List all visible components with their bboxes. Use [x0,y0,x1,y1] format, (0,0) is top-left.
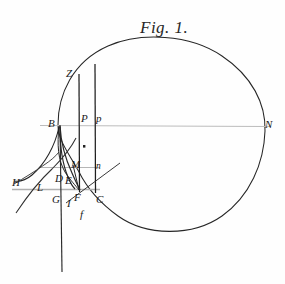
point-marker-dot [83,145,85,148]
axis-line-BN [40,126,270,127]
point-label-B: B [48,118,55,129]
point-label-N: N [265,119,272,130]
point-label-f: f [80,209,83,220]
oval-curve [58,37,265,231]
point-label-n: n [96,162,101,172]
point-label-M: M [71,159,80,170]
point-label-P: P [81,113,88,124]
point-label-Z: Z [66,68,72,79]
figure-drawing [0,0,285,284]
point-label-p: p [96,113,102,124]
cusp-curve-BH [14,127,59,181]
point-label-G: G [52,194,60,205]
point-label-F: F [74,192,81,203]
ordinate-line-pC [95,64,96,193]
point-label-I: I [67,198,71,209]
point-label-E: E [65,175,72,186]
point-label-C: C [96,194,103,205]
figure-title: Fig. 1. [140,18,188,38]
point-label-D: D [55,173,63,184]
point-label-H: H [12,177,20,188]
figure-canvas: Fig. 1. Z B P p N M n H L D E G I F C f [0,0,285,284]
point-label-L: L [37,182,43,193]
ordinate-line-PF [79,74,80,192]
